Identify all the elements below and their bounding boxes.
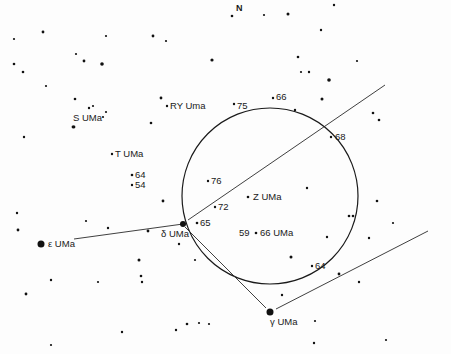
- ry-uma-label: RY Uma: [170, 100, 206, 111]
- star-dot: [300, 71, 302, 73]
- star-dot: [45, 85, 47, 87]
- star-dot: [297, 56, 300, 59]
- star-66-top-label: 66: [276, 91, 287, 102]
- star-dot: [208, 323, 210, 325]
- star-dot: [75, 53, 77, 55]
- star-dot: [333, 4, 335, 6]
- star-dot: [327, 78, 331, 82]
- star-dot: [88, 107, 90, 109]
- star-68-label: 68: [335, 131, 346, 142]
- star-72-label: 72: [218, 201, 229, 212]
- star-dot: [23, 136, 25, 138]
- star-66-top-star: [272, 97, 274, 99]
- star-dot: [198, 322, 200, 324]
- star-dot: [100, 62, 104, 66]
- star-68-star: [330, 136, 332, 138]
- star-65-label: 65: [200, 217, 211, 228]
- star-dot: [105, 35, 107, 37]
- star-dot: [194, 259, 196, 261]
- star-dot: [107, 227, 109, 229]
- star-dot: [385, 339, 387, 341]
- star-72-star: [214, 206, 216, 208]
- star-dot: [162, 200, 165, 203]
- star-dot: [105, 111, 107, 113]
- star-dot: [150, 122, 153, 125]
- star-dot: [165, 40, 167, 42]
- star-64-right-label: 64: [315, 260, 326, 271]
- star-dot: [368, 237, 370, 239]
- star-dot: [231, 15, 234, 18]
- star-dot: [121, 331, 123, 333]
- star-dot: [22, 71, 25, 74]
- constellation-line-delta-to-gamma: [185, 227, 266, 308]
- star-dot: [308, 71, 310, 73]
- gamma-uma-star: [267, 309, 274, 316]
- star-dot: [348, 215, 351, 218]
- star-dot: [138, 259, 141, 262]
- star-dot: [356, 60, 358, 62]
- star-dot: [17, 229, 20, 232]
- star-dot: [141, 281, 143, 283]
- gamma-uma-label: γ UMa: [270, 316, 298, 327]
- star-dot: [338, 273, 341, 276]
- star-dot: [186, 323, 189, 326]
- star-dot: [50, 279, 52, 281]
- z-uma-star: [247, 196, 250, 199]
- star-dot: [147, 230, 150, 233]
- star-chart-canvas: ε UMaδ UMaγ UMaS UMaRY UmaT UMaZ UMa66 U…: [0, 0, 451, 354]
- star-64-right-star: [311, 265, 313, 267]
- ry-uma-star: [166, 105, 168, 107]
- star-dot: [102, 116, 104, 118]
- t-uma-star: [111, 153, 113, 155]
- 66-uma-label: 66 UMa: [260, 227, 294, 238]
- star-dot: [16, 212, 18, 214]
- star-dot: [314, 320, 316, 322]
- constellation-line-delta-to-northeast: [188, 85, 385, 220]
- star-dot: [178, 243, 180, 245]
- s-uma-label: S UMa: [73, 112, 103, 123]
- star-dot: [175, 329, 177, 331]
- star-dot: [372, 112, 375, 115]
- star-dot: [326, 236, 328, 238]
- star-dot: [287, 13, 290, 16]
- star-dot: [85, 220, 87, 222]
- s-uma-star: [73, 126, 76, 129]
- star-dot: [50, 344, 52, 346]
- 66-uma-star: [255, 232, 258, 235]
- star-54-star: [131, 184, 133, 186]
- star-dot: [376, 200, 379, 203]
- star-dot: [263, 14, 265, 16]
- star-65-star: [196, 222, 199, 225]
- star-54-label: 54: [135, 179, 146, 190]
- star-dot: [352, 215, 355, 218]
- epsilon-uma-label: ε UMa: [48, 238, 76, 249]
- t-uma-label: T UMa: [115, 148, 144, 159]
- star-dot: [152, 35, 155, 38]
- star-dot: [97, 281, 99, 283]
- delta-uma-star: [180, 221, 186, 227]
- star-dot: [378, 119, 381, 122]
- star-dot: [13, 38, 15, 40]
- star-64-left-star: [131, 174, 134, 177]
- star-76-star: [207, 180, 209, 182]
- star-dot: [306, 187, 308, 189]
- star-dot: [358, 281, 360, 283]
- star-dot: [281, 294, 283, 296]
- star-75-star: [233, 103, 235, 105]
- star-chart: ε UMaδ UMaγ UMaS UMaRY UmaT UMaZ UMa66 U…: [0, 0, 451, 354]
- star-dot: [83, 60, 86, 63]
- star-59-label: 59: [239, 227, 250, 238]
- z-uma-label: Z UMa: [253, 191, 282, 202]
- delta-uma-label: δ UMa: [161, 228, 190, 239]
- star-dot: [160, 97, 163, 100]
- star-dot: [320, 29, 322, 31]
- star-76-label: 76: [211, 175, 222, 186]
- star-dot: [42, 31, 45, 34]
- star-dot: [313, 342, 315, 344]
- star-dot: [92, 105, 94, 107]
- star-dot: [290, 256, 293, 259]
- epsilon-uma-star: [38, 241, 45, 248]
- star-dot: [13, 63, 16, 66]
- star-dot: [294, 109, 296, 111]
- star-dot: [392, 222, 394, 224]
